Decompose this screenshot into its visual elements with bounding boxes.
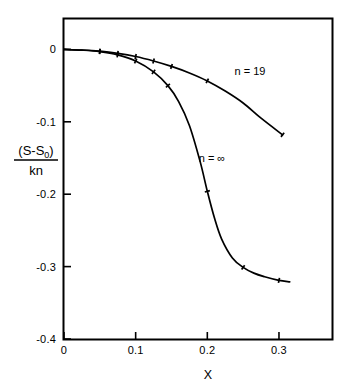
chart-figure: 00.10.20.3 0-0.1-0.2-0.3-0.4 n = 19 n = …	[0, 0, 351, 388]
series-annotation-n-infinity: n = ∞	[199, 152, 226, 164]
y-axis-tick-labels: 0-0.1-0.2-0.3-0.4	[36, 43, 56, 345]
x-tick-label-0: 0	[61, 344, 67, 356]
y-tick-label-1: -0.1	[36, 116, 56, 128]
x-tick-label-1: 0.1	[128, 344, 144, 356]
y-axis-title-numerator: (S-S0)	[18, 143, 53, 160]
marker-s1-0	[99, 49, 100, 54]
y-axis-title-numerator-close: )	[49, 143, 53, 158]
marker-s1-7	[278, 278, 279, 283]
y-axis-title-numerator-text: (S-S	[18, 143, 44, 158]
y-axis-title-denominator: kn	[29, 163, 43, 178]
y-tick-label-2: -0.2	[36, 188, 56, 200]
x-tick-label-2: 0.2	[199, 344, 215, 356]
y-tick-label-4: -0.4	[36, 333, 56, 345]
y-tick-label-0: 0	[50, 43, 56, 55]
y-tick-label-3: -0.3	[36, 261, 56, 273]
x-axis-title: X	[204, 368, 213, 382]
plot-frame	[64, 19, 333, 340]
y-axis-title: (S-S0) kn	[14, 143, 58, 178]
chart-canvas: 00.10.20.3 0-0.1-0.2-0.3-0.4 n = 19 n = …	[0, 0, 351, 388]
series-annotation-n19: n = 19	[235, 65, 266, 77]
x-axis-tick-labels: 00.10.20.3	[61, 344, 287, 356]
marker-s0-2	[135, 54, 136, 59]
x-tick-label-3: 0.3	[271, 344, 287, 356]
